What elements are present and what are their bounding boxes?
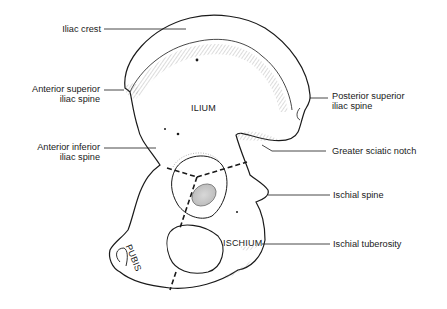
label-text-line2: iliac spine <box>37 152 100 162</box>
label-ischial-tuberosity: Ischial tuberosity <box>333 239 401 249</box>
label-text-line1: Posterior superior <box>332 91 405 101</box>
label-text: Greater sciatic notch <box>332 146 416 156</box>
label-anterior-inferior-iliac-spine: Anterior inferior iliac spine <box>37 142 100 162</box>
label-text-line1: Anterior superior <box>32 84 100 94</box>
label-anterior-superior-iliac-spine: Anterior superior iliac spine <box>32 84 100 104</box>
region-label-ischium: ISCHIUM <box>223 238 262 248</box>
label-iliac-crest: Iliac crest <box>62 24 101 34</box>
label-text: Iliac crest <box>62 24 101 34</box>
label-ischial-spine: Ischial spine <box>333 190 384 200</box>
label-posterior-superior-iliac-spine: Posterior superior iliac spine <box>332 91 405 111</box>
label-text-line1: Anterior inferior <box>37 142 100 152</box>
label-greater-sciatic-notch: Greater sciatic notch <box>332 146 416 156</box>
label-text: Ischial spine <box>333 190 384 200</box>
label-text-line2: iliac spine <box>32 94 100 104</box>
label-text-line2: iliac spine <box>332 101 405 111</box>
label-text: Ischial tuberosity <box>333 239 401 249</box>
region-label-ilium: ILIUM <box>191 103 216 113</box>
